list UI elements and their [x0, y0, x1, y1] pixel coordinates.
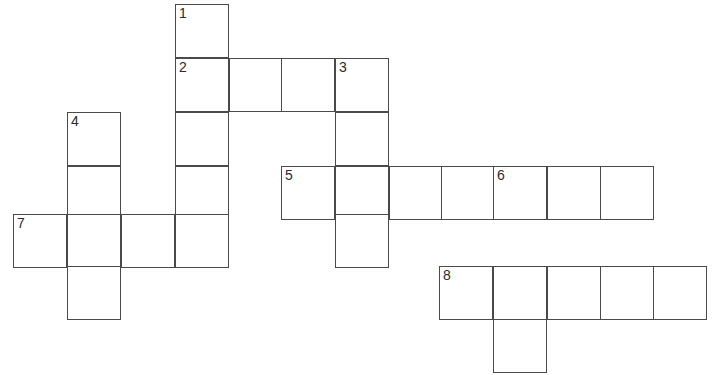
cell-r2c6[interactable] — [335, 112, 389, 166]
cell-r4c1[interactable] — [67, 214, 121, 268]
cell-r3c9[interactable]: 6 — [493, 166, 547, 220]
cell-r5c1[interactable] — [67, 266, 121, 320]
clue-number-3: 3 — [339, 59, 347, 75]
cell-r3c11[interactable] — [600, 166, 654, 220]
cell-r2c1[interactable]: 4 — [67, 112, 121, 166]
cell-r1c5[interactable] — [281, 58, 335, 112]
crossword-grid: 12345678 — [0, 0, 713, 375]
clue-number-2: 2 — [179, 59, 187, 75]
cell-r3c5[interactable]: 5 — [281, 166, 335, 220]
cell-r3c10[interactable] — [547, 166, 601, 220]
cell-r4c6[interactable] — [335, 214, 389, 268]
cell-r6c9[interactable] — [493, 319, 547, 373]
clue-number-8: 8 — [443, 267, 451, 283]
clue-number-5: 5 — [285, 167, 293, 183]
cell-r4c2[interactable] — [121, 214, 175, 268]
cell-r3c7[interactable] — [389, 166, 443, 220]
cell-r3c8[interactable] — [441, 166, 495, 220]
cell-r5c11[interactable] — [600, 266, 654, 320]
cell-r4c0[interactable]: 7 — [13, 214, 67, 268]
clue-number-4: 4 — [71, 113, 79, 129]
cell-r5c8[interactable]: 8 — [439, 266, 493, 320]
cell-r1c3[interactable]: 2 — [175, 58, 229, 112]
cell-r3c6[interactable] — [335, 166, 389, 220]
cell-r1c6[interactable]: 3 — [335, 58, 389, 112]
cell-r2c3[interactable] — [175, 112, 229, 166]
cell-r1c4[interactable] — [229, 58, 283, 112]
cell-r0c3[interactable]: 1 — [175, 4, 229, 58]
clue-number-7: 7 — [17, 215, 25, 231]
clue-number-1: 1 — [179, 5, 187, 21]
cell-r3c1[interactable] — [67, 166, 121, 220]
cell-r3c3[interactable] — [175, 166, 229, 220]
cell-r5c12[interactable] — [653, 266, 707, 320]
cell-r5c9[interactable] — [493, 266, 547, 320]
cell-r4c3[interactable] — [175, 214, 229, 268]
clue-number-6: 6 — [497, 167, 505, 183]
cell-r5c10[interactable] — [547, 266, 601, 320]
